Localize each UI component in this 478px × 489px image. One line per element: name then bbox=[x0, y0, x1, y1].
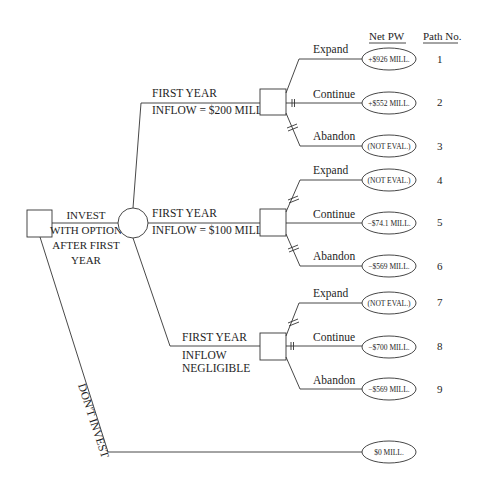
option-7-label: Expand bbox=[313, 287, 348, 300]
branch-negligible-label-line1: FIRST YEAR bbox=[182, 331, 247, 343]
path-number-5: 5 bbox=[437, 216, 443, 228]
decision-node-negligible bbox=[260, 333, 286, 360]
invest-label-line4: YEAR bbox=[71, 254, 102, 266]
path-number-1: 1 bbox=[437, 53, 443, 65]
path-number-3: 3 bbox=[437, 140, 443, 152]
path-number-7: 7 bbox=[437, 296, 443, 308]
option-5-label: Continue bbox=[313, 208, 355, 220]
decision-node-200 bbox=[260, 89, 286, 115]
decision-tree: Net PW Path No. INVEST WITH OPTION AFTER… bbox=[0, 0, 478, 489]
option-6-label: Abandon bbox=[313, 250, 355, 262]
option-4-label: Expand bbox=[313, 164, 348, 177]
outcome-5-value: −$74.1 MILL. bbox=[367, 219, 410, 228]
option-3-label: Abandon bbox=[313, 130, 355, 142]
branch-100-label-line1: FIRST YEAR bbox=[152, 207, 217, 219]
branch-negligible-label-line3: NEGLIGIBLE bbox=[182, 362, 250, 374]
branch-200-label-line2: INFLOW = $200 MILL. bbox=[152, 104, 266, 116]
branch-200-line bbox=[133, 103, 260, 208]
blocked-mark-6a bbox=[288, 245, 298, 249]
branch-negligible-line bbox=[133, 238, 260, 346]
path-number-9: 9 bbox=[437, 383, 443, 395]
invest-label-line1: INVEST bbox=[66, 209, 105, 221]
path-number-8: 8 bbox=[437, 340, 443, 352]
outcome-6-value: −$569 MILL. bbox=[368, 262, 409, 271]
branch-100-label-line2: INFLOW = $100 MILL. bbox=[152, 224, 266, 236]
path-number-4: 4 bbox=[437, 174, 443, 186]
path-number-6: 6 bbox=[437, 260, 443, 272]
outcome-9-value: −$569 MILL. bbox=[368, 385, 409, 394]
decision-node-100 bbox=[260, 209, 286, 236]
outcome-8-value: −$700 MILL. bbox=[368, 343, 409, 352]
header-net-pw: Net PW bbox=[369, 30, 405, 42]
branch-200-label-line1: FIRST YEAR bbox=[152, 87, 217, 99]
root-decision-node bbox=[27, 210, 52, 237]
option-2-label: Continue bbox=[313, 88, 355, 100]
option-1-label: Expand bbox=[313, 43, 348, 56]
outcome-dont-invest-value: $0 MILL. bbox=[374, 448, 404, 457]
blocked-mark-7a bbox=[288, 319, 298, 323]
chance-node bbox=[118, 208, 148, 238]
path-number-2: 2 bbox=[437, 96, 443, 108]
outcome-2-value: +$552 MILL. bbox=[368, 99, 409, 108]
invest-label-line2: WITH OPTION bbox=[50, 224, 122, 236]
dont-invest-label: DON'T INVEST bbox=[76, 382, 111, 459]
option-8-label: Continue bbox=[313, 331, 355, 343]
outcome-3-value: (NOT EVAL.) bbox=[367, 142, 411, 151]
header-path-no: Path No. bbox=[423, 30, 462, 42]
option-9-label: Abandon bbox=[313, 374, 355, 386]
invest-label-line3: AFTER FIRST bbox=[52, 239, 120, 251]
outcome-7-value: (NOT EVAL.) bbox=[367, 299, 411, 308]
outcome-4-value: (NOT EVAL.) bbox=[367, 176, 411, 185]
outcome-1-value: +$926 MILL. bbox=[368, 55, 409, 64]
branch-negligible-label-line2: INFLOW bbox=[182, 349, 227, 361]
